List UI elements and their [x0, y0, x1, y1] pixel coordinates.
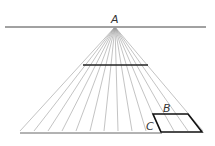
perspective-ray: [62, 27, 115, 131]
perspective-ray: [104, 27, 115, 131]
perspective-ray: [48, 27, 115, 131]
perspective-ray: [20, 27, 115, 131]
perspective-ray: [115, 27, 146, 131]
perspective-diagram: A B C: [0, 0, 215, 146]
label-a: A: [110, 13, 119, 26]
label-c: C: [146, 120, 154, 133]
perspective-rays: [20, 27, 203, 131]
label-b: B: [163, 102, 171, 115]
parallelogram-shape: [153, 114, 202, 132]
perspective-ray: [34, 27, 115, 131]
perspective-ray: [115, 27, 174, 131]
perspective-ray: [115, 27, 188, 131]
